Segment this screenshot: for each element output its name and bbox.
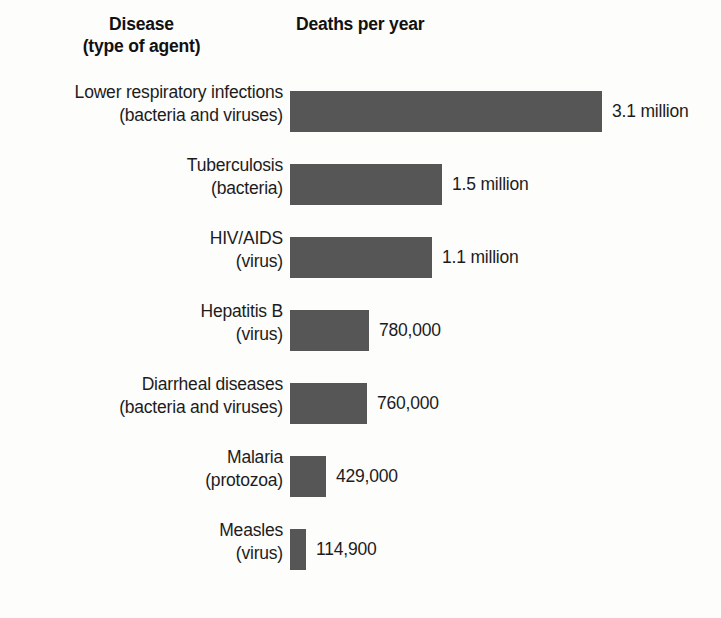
bar-track: 760,000 (290, 383, 721, 424)
disease-name: HIV/AIDS (210, 228, 283, 248)
bar-row: Lower respiratory infections(bacteria an… (0, 78, 721, 151)
bar-track: 1.1 million (290, 237, 721, 278)
agent-type: (virus) (7, 323, 283, 346)
disease-name: Diarrheal diseases (142, 374, 283, 394)
disease-column-header-line2: (type of agent) (0, 35, 283, 57)
bar (290, 310, 369, 351)
bar-track: 3.1 million (290, 91, 721, 132)
disease-name: Malaria (227, 447, 283, 467)
disease-name: Tuberculosis (187, 155, 283, 175)
agent-type: (protozoa) (7, 469, 283, 492)
bar-row: Diarrheal diseases(bacteria and viruses)… (0, 370, 721, 443)
bar-value-label: 114,900 (316, 538, 377, 560)
deaths-per-year-bar-chart: Disease (type of agent) Deaths per year … (0, 0, 721, 618)
bar-row-label: Malaria(protozoa) (7, 446, 283, 491)
disease-column-header: Disease (type of agent) (0, 13, 283, 57)
disease-name: Hepatitis B (201, 301, 283, 321)
agent-type: (bacteria) (7, 177, 283, 200)
bar (290, 456, 326, 497)
bar-row-label: Hepatitis B(virus) (7, 300, 283, 345)
disease-column-header-line1: Disease (109, 14, 174, 34)
bar-row: Measles(virus)114,900 (0, 516, 721, 589)
disease-name: Measles (219, 520, 283, 540)
bar-value-label: 1.1 million (442, 246, 519, 268)
agent-type: (bacteria and viruses) (7, 104, 283, 127)
agent-type: (virus) (7, 250, 283, 273)
bar-value-label: 780,000 (379, 319, 441, 341)
deaths-column-header: Deaths per year (296, 13, 596, 35)
bar-row-label: HIV/AIDS(virus) (7, 227, 283, 272)
agent-type: (bacteria and viruses) (7, 396, 283, 419)
bar-row-label: Tuberculosis(bacteria) (7, 154, 283, 199)
bar-row: Tuberculosis(bacteria)1.5 million (0, 151, 721, 224)
bar-value-label: 760,000 (377, 392, 439, 414)
agent-type: (virus) (7, 542, 283, 565)
bar-value-label: 1.5 million (452, 173, 529, 195)
bar-track: 1.5 million (290, 164, 721, 205)
bar-row-label: Diarrheal diseases(bacteria and viruses) (7, 373, 283, 418)
bar-row: Malaria(protozoa)429,000 (0, 443, 721, 516)
bar (290, 164, 442, 205)
bar-track: 780,000 (290, 310, 721, 351)
bar (290, 529, 306, 570)
bar-value-label: 3.1 million (612, 100, 689, 122)
bar (290, 383, 367, 424)
bar (290, 91, 602, 132)
bar-row-label: Measles(virus) (7, 519, 283, 564)
chart-rows: Lower respiratory infections(bacteria an… (0, 78, 721, 589)
disease-name: Lower respiratory infections (75, 82, 283, 102)
bar-row-label: Lower respiratory infections(bacteria an… (7, 81, 283, 126)
bar-row: HIV/AIDS(virus)1.1 million (0, 224, 721, 297)
bar-track: 429,000 (290, 456, 721, 497)
bar (290, 237, 432, 278)
bar-value-label: 429,000 (336, 465, 398, 487)
chart-column-headers: Disease (type of agent) Deaths per year (0, 10, 721, 70)
bar-row: Hepatitis B(virus)780,000 (0, 297, 721, 370)
bar-track: 114,900 (290, 529, 721, 570)
